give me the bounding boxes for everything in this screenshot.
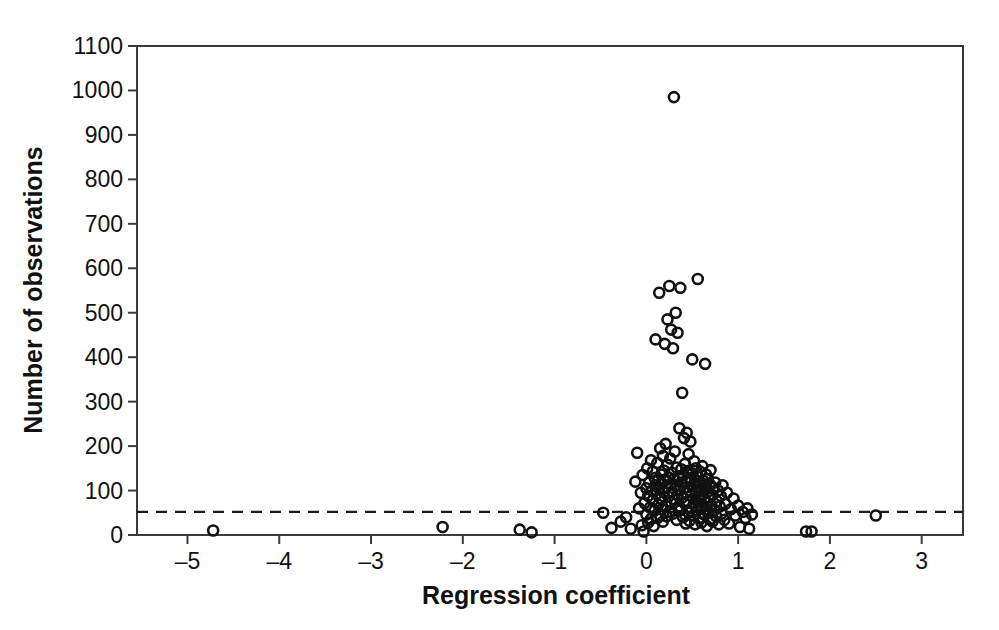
x-axis-tick-label: –1 (542, 548, 568, 574)
y-axis-tick-label: 0 (110, 522, 123, 548)
x-axis-tick-label: –4 (266, 548, 292, 574)
y-axis-tick-label: 1100 (74, 33, 123, 59)
data-point (675, 283, 685, 293)
y-axis-tick-label: 400 (85, 344, 123, 370)
data-point (515, 525, 525, 535)
y-axis-tick-label: 300 (85, 389, 123, 415)
x-axis-tick-label: 3 (915, 548, 928, 574)
data-point (668, 343, 678, 353)
data-point (693, 274, 703, 284)
y-axis-tick-label: 600 (85, 255, 123, 281)
y-axis-tick-label: 700 (85, 211, 123, 237)
data-point (626, 524, 636, 534)
y-axis-title: Number of observations (19, 146, 47, 434)
data-point (669, 92, 679, 102)
scatter-plot-figure: 010020030040050060070080090010001100–5–4… (0, 0, 999, 630)
x-axis-tick-label: 0 (640, 548, 653, 574)
data-point (632, 448, 642, 458)
data-point (677, 388, 687, 398)
y-axis-tick-label: 100 (85, 478, 123, 504)
data-point (871, 510, 881, 520)
x-axis-tick-label: –2 (450, 548, 476, 574)
data-point (687, 354, 697, 364)
data-points-layer (208, 92, 881, 537)
y-axis-tick-label: 900 (85, 122, 123, 148)
x-axis-tick-label: 2 (824, 548, 837, 574)
x-axis-tick-label: –5 (175, 548, 201, 574)
x-axis-title: Regression coefficient (422, 581, 691, 609)
data-point (664, 281, 674, 291)
data-point (654, 288, 664, 298)
y-axis-tick-label: 1000 (72, 77, 123, 103)
plot-frame (137, 46, 963, 535)
y-axis-tick-label: 800 (85, 166, 123, 192)
data-point (700, 359, 710, 369)
y-axis-tick-label: 500 (85, 300, 123, 326)
data-point (438, 522, 448, 532)
y-axis-tick-label: 200 (85, 433, 123, 459)
plot-canvas: 010020030040050060070080090010001100–5–4… (0, 0, 999, 630)
data-point (671, 308, 681, 318)
x-axis-tick-label: 1 (732, 548, 745, 574)
axes-layer (128, 46, 963, 544)
axis-labels-layer: 010020030040050060070080090010001100–5–4… (72, 33, 928, 574)
x-axis-tick-label: –3 (358, 548, 384, 574)
